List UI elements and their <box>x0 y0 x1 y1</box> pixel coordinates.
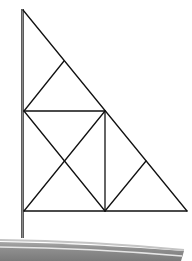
sailboat-diagram <box>0 0 192 261</box>
mast <box>21 9 24 238</box>
boat-hull <box>0 240 184 261</box>
sail-segment <box>105 161 146 211</box>
hull-body <box>0 242 184 261</box>
sail-triangle <box>23 10 187 211</box>
sail-segment <box>24 61 64 111</box>
mast-highlight <box>22 9 23 238</box>
